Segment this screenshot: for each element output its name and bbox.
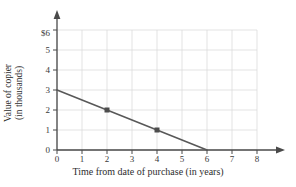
ytick-label-2: 2 (46, 106, 51, 115)
y-axis-title-line-2: (in thousands) (14, 64, 25, 122)
ytick-label-5: 5 (46, 46, 51, 55)
xtick-label-7: 7 (230, 155, 235, 164)
x-axis-title: Time from date of purchase (in years) (72, 166, 223, 177)
ytick-label-4: 4 (46, 66, 51, 75)
ytick-label-3: 3 (46, 86, 51, 95)
xtick-label-4: 4 (155, 155, 160, 164)
data-point-marker (155, 128, 160, 133)
y-axis-arrowhead (54, 10, 61, 19)
data-point-marker (105, 108, 110, 113)
ytick-label-6: $6 (41, 29, 50, 38)
y-axis-title: Value of copier (in thousands) (3, 64, 25, 122)
xtick-label-6: 6 (205, 155, 210, 164)
y-axis-title-line-1: Value of copier (3, 64, 14, 122)
ytick-label-1: 1 (46, 126, 51, 135)
xtick-label-2: 2 (105, 155, 110, 164)
xtick-label-3: 3 (130, 155, 135, 164)
x-axis-arrowhead (276, 147, 285, 154)
ytick-label-0: 0 (46, 146, 51, 155)
xtick-label-0: 0 (55, 155, 60, 164)
chart-figure: $6 5 4 3 2 1 0 0 1 2 3 4 5 6 7 8 Time fr… (0, 0, 296, 187)
xtick-label-1: 1 (80, 155, 85, 164)
xtick-label-8: 8 (255, 155, 260, 164)
xtick-label-5: 5 (180, 155, 185, 164)
